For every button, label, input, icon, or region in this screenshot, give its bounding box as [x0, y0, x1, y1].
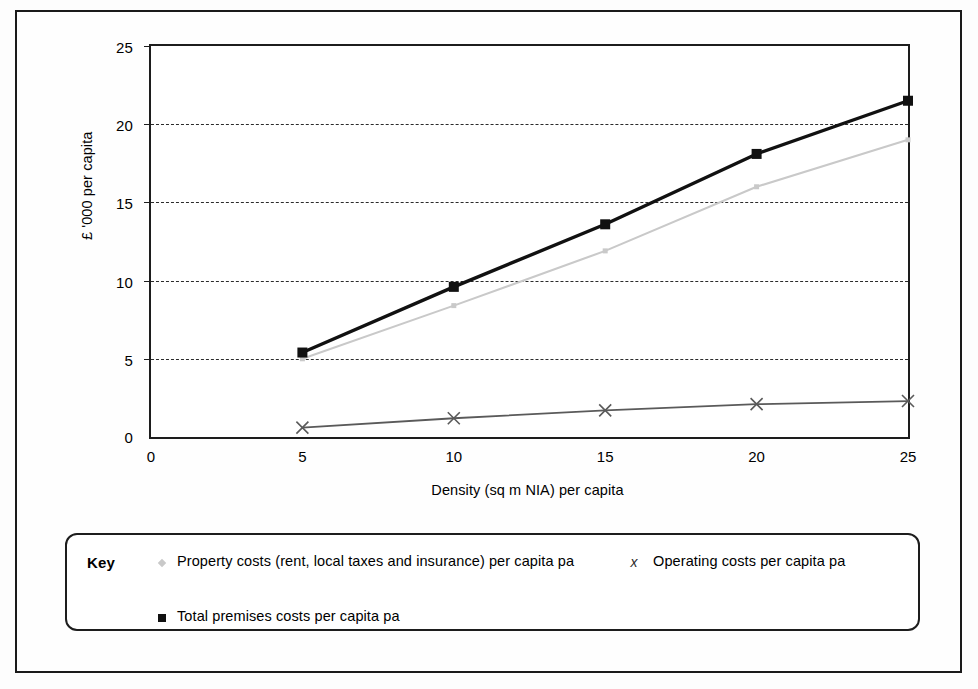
- figure-page: £ '000 per capita 25 20 15: [0, 0, 978, 689]
- y-axis-title: £ '000 per capita: [79, 132, 95, 240]
- x-tick-label-15: 15: [597, 448, 614, 465]
- chart-area: £ '000 per capita 25 20 15: [17, 12, 964, 532]
- data-point-marker: [906, 137, 911, 142]
- data-point-marker: [297, 348, 307, 358]
- y-tick-label-20: 20: [116, 117, 133, 134]
- legend-item-operating-costs: x Operating costs per capita pa: [627, 552, 917, 571]
- data-point-marker: [449, 282, 459, 292]
- legend-item-operating-costs-label: Operating costs per capita pa: [653, 552, 845, 571]
- y-tick-10: 10: [144, 281, 151, 282]
- data-point-marker: [754, 184, 759, 189]
- figure-outer-frame: £ '000 per capita 25 20 15: [15, 10, 962, 673]
- data-point-marker: [603, 248, 608, 253]
- legend-key-label: Key: [87, 554, 115, 571]
- data-point-marker: [752, 149, 762, 159]
- y-tick-15: 15: [144, 202, 151, 203]
- y-tick-5: 5: [144, 359, 151, 360]
- y-tick-label-0: 0: [124, 429, 133, 446]
- series-line: [302, 401, 908, 428]
- x-tick-label-10: 10: [445, 448, 462, 465]
- small-grey-diamond-icon: [155, 555, 169, 569]
- legend-item-property-costs-label: Property costs (rent, local taxes and in…: [177, 552, 574, 571]
- series-plot: [151, 46, 908, 437]
- x-tick-label-25: 25: [900, 448, 917, 465]
- legend-item-total-premises-costs-label: Total premises costs per capita pa: [177, 607, 400, 626]
- data-point-marker: [451, 303, 456, 308]
- data-point-marker: [903, 96, 913, 106]
- y-tick-20: 20: [144, 124, 151, 125]
- x-tick-label-5: 5: [298, 448, 306, 465]
- y-tick-label-25: 25: [116, 39, 133, 56]
- legend-item-property-costs: Property costs (rent, local taxes and in…: [155, 552, 585, 571]
- x-axis-title: Density (sq m NIA) per capita: [149, 482, 906, 498]
- x-marker-icon: x: [627, 555, 641, 570]
- y-tick-label-15: 15: [116, 195, 133, 212]
- x-tick-label-0: 0: [147, 448, 155, 465]
- y-tick-label-5: 5: [124, 351, 133, 368]
- x-tick-label-20: 20: [748, 448, 765, 465]
- legend-box: Key Property costs (rent, local taxes an…: [65, 533, 920, 631]
- legend-item-total-premises-costs: Total premises costs per capita pa: [155, 607, 585, 626]
- y-tick-label-10: 10: [116, 273, 133, 290]
- black-square-icon: [155, 610, 169, 624]
- y-tick-25: 25: [144, 46, 151, 47]
- plot-area: 25 20 15 10 5 0 0 5: [149, 44, 910, 439]
- data-point-marker: [600, 219, 610, 229]
